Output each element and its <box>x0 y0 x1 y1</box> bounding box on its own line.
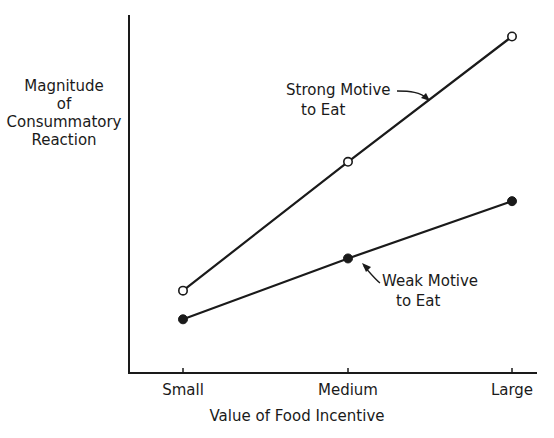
weak-motive-annotation-line2: to Eat <box>396 291 440 311</box>
x-axis-label: Value of Food Incentive <box>0 407 554 425</box>
y-axis-label-line: Consummatory <box>0 114 128 131</box>
open-circle-marker-medium <box>344 158 352 166</box>
filled-circle-marker-large <box>508 197 517 206</box>
y-axis-label-line: Magnitude <box>0 78 128 95</box>
y-axis-label-line: of <box>0 96 128 113</box>
line-chart: Magnitude of Consummatory Reaction Small… <box>0 0 554 438</box>
filled-circle-marker-medium <box>344 254 353 263</box>
open-circle-marker-large <box>508 32 516 40</box>
x-tick-label-small: Small <box>162 381 204 399</box>
strong-motive-annotation-line1: Strong Motive <box>286 80 391 100</box>
weak-motive-annotation-line1: Weak Motive <box>382 271 478 291</box>
x-tick-label-large: Large <box>491 381 533 399</box>
weak-motive-arrowhead <box>362 263 371 272</box>
open-circle-marker-small <box>179 286 187 294</box>
strong-motive-annotation-line2: to Eat <box>301 100 345 120</box>
x-tick-label-medium: Medium <box>318 381 378 399</box>
y-axis-label-line: Reaction <box>0 132 128 149</box>
filled-circle-marker-small <box>179 315 188 324</box>
plot-area <box>0 0 554 438</box>
strong-motive-arrowhead <box>421 93 430 101</box>
